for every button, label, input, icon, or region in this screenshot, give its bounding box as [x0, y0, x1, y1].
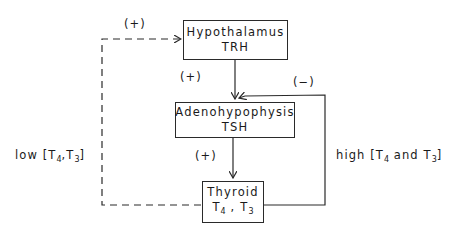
adenohypophysis-title: Adenohypophysis	[175, 105, 294, 120]
label-minus-feedback: (−)	[293, 75, 315, 89]
hypothalamus-hormone: TRH	[222, 40, 249, 55]
thyroid-title: Thyroid	[207, 185, 259, 200]
thyroid-box: Thyroid T4 , T3	[202, 181, 264, 223]
label-low-t4-t3: low [T4,T3]	[15, 148, 85, 164]
thyroid-hormone: T4 , T3	[212, 200, 253, 219]
hypothalamus-box: Hypothalamus TRH	[183, 20, 288, 60]
label-high-t4-and-t3: high [T4 and T3]	[336, 148, 442, 164]
hypothalamus-title: Hypothalamus	[187, 25, 285, 40]
adenohypophysis-box: Adenohypophysis TSH	[175, 102, 295, 138]
label-plus-trh: (+)	[180, 70, 202, 84]
label-plus-tsh: (+)	[195, 149, 217, 163]
label-plus-dashed-feedback: (+)	[124, 17, 146, 31]
adenohypophysis-hormone: TSH	[222, 120, 249, 135]
